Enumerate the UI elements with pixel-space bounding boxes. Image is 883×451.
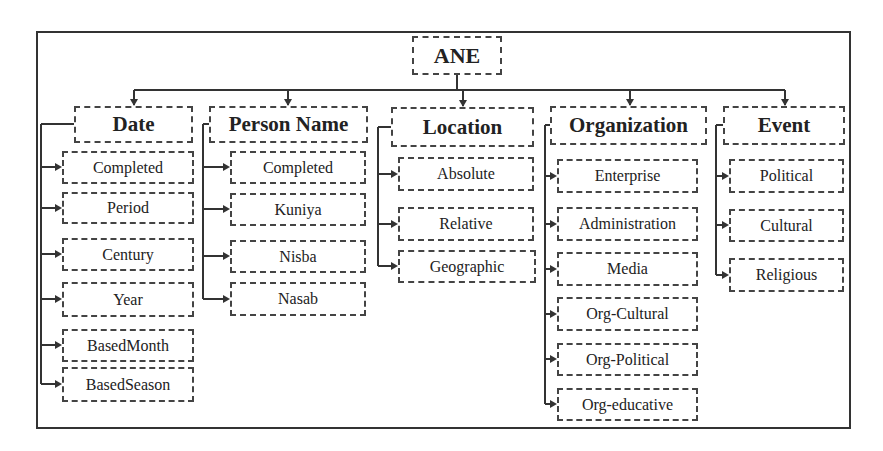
arrow-right-icon	[722, 271, 729, 279]
event-child-cultural: Cultural	[729, 209, 844, 242]
arrow-right-icon	[223, 252, 230, 260]
arrow-right-icon	[55, 163, 62, 171]
person-name-child-nasab: Nasab	[230, 282, 366, 316]
arrow-down-icon	[459, 100, 467, 107]
root-node-ane: ANE	[412, 36, 502, 75]
organization-child-administration: Administration	[557, 207, 698, 241]
arrow-right-icon	[223, 205, 230, 213]
category-person-name: Person Name	[209, 106, 368, 143]
arrow-right-icon	[55, 250, 62, 258]
arrow-right-icon	[55, 341, 62, 349]
arrow-right-icon	[391, 170, 398, 178]
location-child-geographic: Geographic	[398, 250, 536, 283]
organization-child-org-educative: Org-educative	[557, 388, 698, 421]
arrow-right-icon	[550, 172, 557, 180]
arrow-right-icon	[391, 220, 398, 228]
organization-child-org-cultural: Org-Cultural	[557, 297, 698, 331]
category-location: Location	[391, 107, 534, 147]
arrow-down-icon	[130, 99, 138, 106]
person-name-child-nisba: Nisba	[230, 240, 366, 273]
arrow-right-icon	[391, 262, 398, 270]
arrow-down-icon	[626, 99, 634, 106]
arrow-down-icon	[781, 99, 789, 106]
arrow-right-icon	[550, 355, 557, 363]
event-child-religious: Religious	[729, 258, 844, 292]
date-child-completed: Completed	[62, 151, 194, 184]
person-name-child-completed: Completed	[230, 151, 366, 184]
arrow-right-icon	[55, 204, 62, 212]
date-child-century: Century	[62, 238, 194, 271]
arrow-right-icon	[223, 295, 230, 303]
arrow-right-icon	[55, 380, 62, 388]
arrow-right-icon	[550, 400, 557, 408]
arrow-right-icon	[223, 163, 230, 171]
date-child-basedseason: BasedSeason	[62, 367, 194, 402]
date-child-period: Period	[62, 192, 194, 224]
arrow-right-icon	[550, 310, 557, 318]
arrow-right-icon	[722, 172, 729, 180]
date-child-year: Year	[62, 282, 194, 317]
organization-child-org-political: Org-Political	[557, 343, 698, 376]
category-date: Date	[74, 106, 193, 143]
organization-child-enterprise: Enterprise	[557, 159, 698, 193]
arrow-right-icon	[722, 221, 729, 229]
category-organization: Organization	[550, 106, 707, 145]
location-child-absolute: Absolute	[398, 157, 534, 191]
organization-child-media: Media	[557, 252, 698, 286]
arrow-right-icon	[55, 295, 62, 303]
category-event: Event	[723, 106, 845, 145]
date-child-basedmonth: BasedMonth	[62, 329, 194, 362]
arrow-right-icon	[550, 220, 557, 228]
person-name-child-kuniya: Kuniya	[230, 193, 366, 226]
event-child-political: Political	[729, 159, 844, 193]
arrow-right-icon	[550, 265, 557, 273]
arrow-down-icon	[284, 99, 292, 106]
location-child-relative: Relative	[398, 207, 534, 241]
